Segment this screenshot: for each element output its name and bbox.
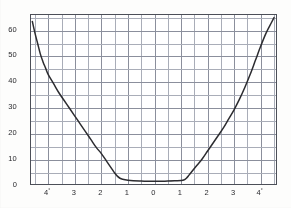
degree-symbol: ° [261,187,263,193]
data-curve [31,15,277,185]
degree-symbol: ° [48,187,50,193]
y-tick-label: 50 [0,51,17,59]
chart-figure: 0102030405060 4°32101234° [0,0,291,208]
x-tick-label: 3 [61,189,87,197]
y-tick-label: 0 [0,181,17,189]
y-tick-label: 30 [0,103,17,111]
plot-area [30,14,277,185]
x-tick-label: 4° [34,189,60,197]
x-tick-label: 1 [114,189,140,197]
y-tick-label: 20 [0,129,17,137]
x-tick-label: 1 [167,189,193,197]
x-tick-label: 3 [220,189,246,197]
x-tick-label: 2 [194,189,220,197]
curve-path [32,18,274,182]
x-tick-label: 0 [141,189,167,197]
y-tick-label: 10 [0,155,17,163]
y-tick-label: 60 [0,26,17,34]
x-tick-label: 4° [247,189,273,197]
y-tick-label: 40 [0,77,17,85]
x-tick-label: 2 [87,189,113,197]
